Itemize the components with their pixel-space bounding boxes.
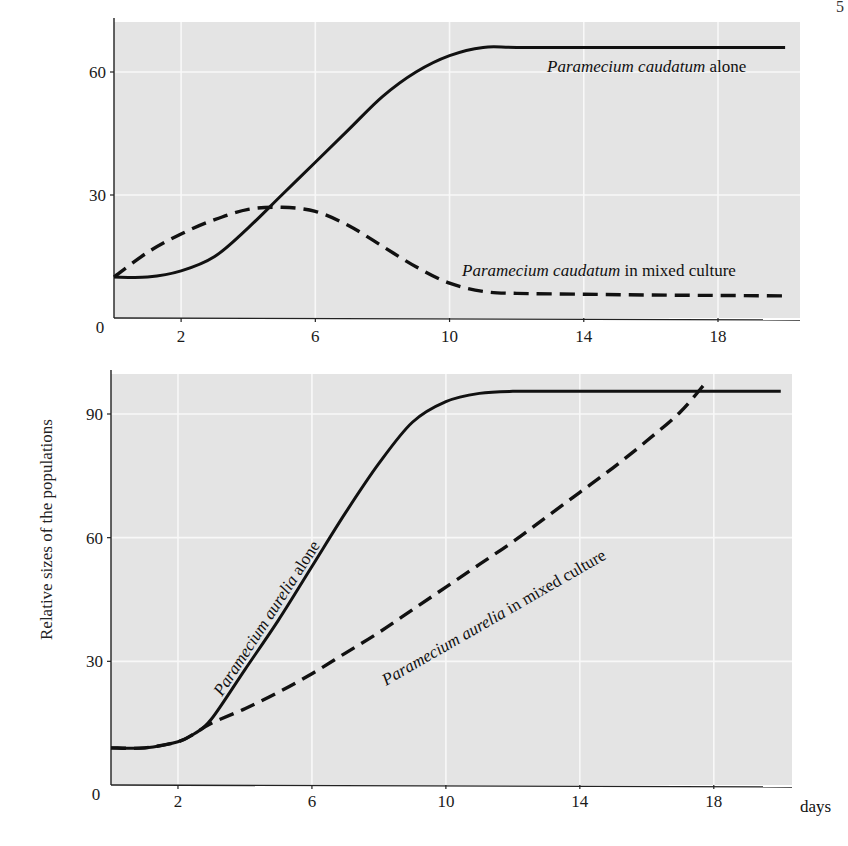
x-axis-line (111, 785, 792, 787)
label-caudatum-alone: Paramecium caudatum alone (546, 57, 746, 76)
y-tick-label: 90 (86, 405, 103, 424)
panel-top-caudatum: 2610141803060 Paramecium caudatum alone … (89, 18, 800, 346)
plot-area-bottom (111, 374, 792, 785)
y-tick-label: 30 (89, 186, 106, 205)
x-tick-label: 6 (311, 327, 320, 346)
panel-bottom-aurelia: 261014180306090 Paramecium aurelia alone… (86, 370, 831, 816)
x-tick-label: 6 (308, 792, 317, 811)
x-tick-label: 18 (710, 327, 727, 346)
x-tick-label: 14 (575, 327, 593, 346)
x-tick-label: 10 (441, 327, 458, 346)
page-corner-mark: 5 (836, 0, 844, 15)
figure: 5 2610141803060 Paramecium caudatum alon… (0, 0, 848, 846)
x-tick-label: 2 (174, 792, 183, 811)
label-caudatum-mixed: Paramecium caudatum in mixed culture (461, 261, 736, 280)
y-tick-label: 0 (96, 318, 105, 337)
x-tick-label: 10 (437, 792, 454, 811)
y-tick-label: 60 (89, 63, 106, 82)
y-tick-label: 0 (92, 785, 101, 804)
x-axis-line (114, 318, 800, 320)
y-axis-title: Relative sizes of the populations (37, 419, 56, 640)
y-tick-label: 30 (86, 652, 103, 671)
x-axis-unit-label: days (800, 797, 831, 816)
x-tick-label: 18 (705, 792, 722, 811)
y-tick-label: 60 (86, 529, 103, 548)
x-tick-label: 2 (177, 327, 186, 346)
x-tick-label: 14 (571, 792, 589, 811)
